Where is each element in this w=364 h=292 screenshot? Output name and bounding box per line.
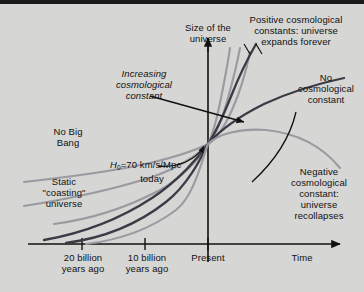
- negative-lambda-label: Negative cosmological constant: universe…: [276, 166, 362, 221]
- no-big-bang-label: No Big Bang: [34, 126, 102, 148]
- x-tick-label-present: Present: [178, 252, 238, 263]
- cosmology-expansion-diagram: Size of the universe Positive cosmologic…: [0, 0, 364, 292]
- x-axis-label: Time: [278, 252, 326, 263]
- hubble-symbol: H: [110, 159, 117, 170]
- static-coasting-label: Static "coasting" universe: [26, 176, 102, 209]
- positive-lambda-label: Positive cosmological constants: univers…: [232, 14, 360, 47]
- x-tick-label-20byr: 20 billion years ago: [48, 252, 118, 274]
- hubble-today: today: [110, 173, 194, 184]
- hubble-value: =70 km/s/Mpc: [121, 159, 182, 170]
- increasing-lambda-label: Increasing cosmological constant: [96, 68, 192, 101]
- hubble-constant-label: H0=70 km/s/Mpc today: [110, 148, 210, 195]
- no-lambda-label: No cosmological constant: [288, 72, 364, 105]
- x-tick-label-10byr: 10 billion years ago: [112, 252, 182, 274]
